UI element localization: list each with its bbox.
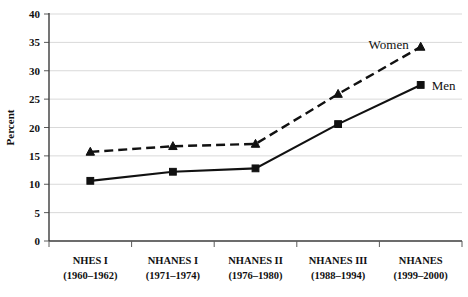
- y-axis-tick-label: 20: [29, 122, 41, 134]
- series-annotation-women: Women: [369, 37, 410, 52]
- data-point-marker-women: [334, 89, 342, 97]
- x-axis-category-name: NHANES: [399, 255, 443, 266]
- y-axis-tick-label: 5: [35, 207, 41, 219]
- x-axis-category-years: (1999–2000): [394, 270, 449, 282]
- y-axis-tick-label: 10: [29, 178, 41, 190]
- x-axis-category-years: (1988–1994): [311, 270, 366, 282]
- series-markers-group: [86, 42, 425, 184]
- y-axis-tick-label: 35: [29, 36, 41, 48]
- y-axis-tick-label: 40: [29, 8, 41, 20]
- x-axis-category-years: (1971–1974): [146, 270, 201, 282]
- data-point-marker-men: [87, 177, 94, 184]
- data-point-marker-men: [252, 165, 259, 172]
- x-axis-category-name: NHANES I: [148, 255, 198, 266]
- y-axis-tick-label: 0: [35, 235, 41, 247]
- y-axis-ticks-group: [44, 14, 49, 241]
- data-point-marker-men: [335, 121, 342, 128]
- chart-container: 0510152025303540 NHES I(1960–1962)NHANES…: [0, 0, 468, 297]
- x-axis-ticks-group: [49, 241, 462, 247]
- y-axis-tick-label: 30: [29, 65, 41, 77]
- y-axis-tick-label: 15: [29, 150, 41, 162]
- x-axis-category-labels-group: NHES I(1960–1962)NHANES I(1971–1974)NHAN…: [63, 255, 448, 282]
- y-axis-title: Percent: [4, 109, 16, 145]
- data-point-marker-women: [416, 42, 424, 50]
- y-axis-tick-label: 25: [29, 93, 41, 105]
- x-axis-category-years: (1976–1980): [228, 270, 283, 282]
- series-lines-group: [90, 47, 420, 181]
- series-annotation-men: Men: [432, 78, 456, 93]
- data-point-marker-men: [170, 168, 177, 175]
- y-axis-tick-labels-group: 0510152025303540: [29, 8, 41, 247]
- x-axis-category-name: NHES I: [73, 255, 108, 266]
- x-axis-category-name: NHANES III: [309, 255, 368, 266]
- x-axis-category-name: NHANES II: [228, 255, 283, 266]
- series-annotations-group: WomenMen: [369, 37, 456, 93]
- x-axis-category-years: (1960–1962): [63, 270, 118, 282]
- data-point-marker-men: [417, 82, 424, 89]
- line-chart: 0510152025303540 NHES I(1960–1962)NHANES…: [0, 0, 468, 297]
